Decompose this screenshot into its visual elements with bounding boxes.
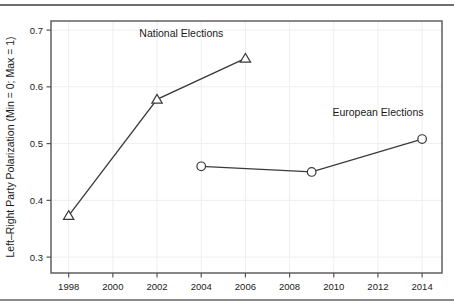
x-tick-label: 2014	[412, 281, 433, 292]
x-axis-ticks: 199820002002200420062008201020122014	[58, 273, 433, 292]
series-annotation-label: European Elections	[332, 106, 423, 118]
x-tick-label: 2002	[146, 281, 167, 292]
y-tick-label: 0.5	[30, 138, 43, 149]
line-chart-plot: 199820002002200420062008201020122014 0.3…	[0, 0, 454, 305]
x-tick-label: 2004	[191, 281, 212, 292]
y-tick-label: 0.7	[30, 25, 43, 36]
y-tick-label: 0.3	[30, 252, 43, 263]
x-tick-label: 2008	[279, 281, 300, 292]
data-point-triangle	[240, 54, 250, 63]
x-tick-label: 2000	[102, 281, 123, 292]
series-annotations-group: National ElectionsEuropean Elections	[139, 27, 423, 117]
y-tick-label: 0.4	[30, 195, 43, 206]
x-tick-label: 1998	[58, 281, 79, 292]
x-tick-label: 2012	[367, 281, 388, 292]
y-axis-title: Left–Right Party Polarization (Min = 0; …	[4, 36, 16, 257]
series-annotation-label: National Elections	[139, 27, 223, 39]
data-point-circle	[418, 135, 427, 144]
y-tick-label: 0.6	[30, 81, 43, 92]
x-tick-label: 2010	[323, 281, 344, 292]
data-point-triangle	[63, 211, 73, 220]
data-point-circle	[197, 162, 206, 171]
data-point-triangle	[152, 94, 162, 103]
chart-container: 199820002002200420062008201020122014 0.3…	[0, 0, 454, 305]
y-axis-ticks: 0.30.40.50.60.7	[30, 25, 51, 263]
x-tick-label: 2006	[235, 281, 256, 292]
data-point-circle	[307, 168, 316, 177]
